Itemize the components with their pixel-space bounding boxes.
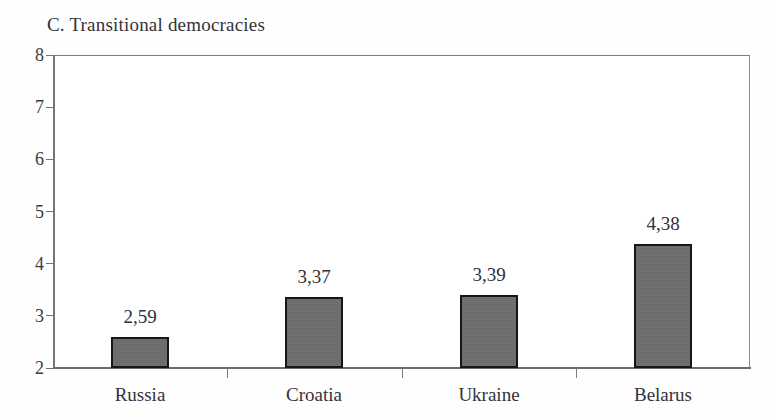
bar-value-label: 4,38 — [603, 214, 723, 234]
x-axis-tick — [576, 369, 577, 378]
x-axis-tick — [402, 369, 403, 378]
bar-texture — [462, 297, 516, 366]
bar — [285, 297, 343, 368]
y-axis-tick — [46, 211, 54, 212]
bar-value-label: 3,39 — [429, 265, 549, 285]
bar-value-label: 3,37 — [254, 267, 374, 287]
x-axis-category-label: Belarus — [583, 384, 743, 406]
x-axis-category-label: Ukraine — [409, 384, 569, 406]
y-axis-tick-label: 2 — [0, 359, 44, 377]
bar — [111, 337, 169, 368]
bar-texture — [287, 299, 341, 366]
chart-title: C. Transitional democracies — [47, 13, 265, 37]
y-axis-tick — [46, 263, 54, 264]
y-axis-tick-label: 6 — [0, 150, 44, 168]
y-axis-tick-label: 4 — [0, 255, 44, 273]
y-axis-tick-label: 8 — [0, 46, 44, 64]
y-axis-tick — [46, 159, 54, 160]
y-axis-tick-label-text: 5 — [4, 203, 44, 221]
bar-texture — [636, 246, 690, 366]
bar-texture — [113, 339, 167, 366]
y-axis-tick — [46, 315, 54, 316]
y-axis-tick-label: 7 — [0, 98, 44, 116]
chart-screenshot: C. Transitional democracies 2345678 2,59… — [0, 0, 773, 419]
x-axis-category-label: Croatia — [234, 384, 394, 406]
y-axis-tick-label-text: 4 — [4, 255, 44, 273]
y-axis-tick-label: 3 — [0, 307, 44, 325]
y-axis-tick-label-text: 3 — [4, 307, 44, 325]
y-axis-tick-label-text: 6 — [4, 150, 44, 168]
y-axis-tick-label-text: 8 — [4, 46, 44, 64]
x-axis-tick — [227, 369, 228, 378]
y-axis-tick — [46, 368, 54, 369]
y-axis-tick — [46, 55, 54, 56]
y-axis-tick-label-text: 7 — [4, 98, 44, 116]
y-axis-tick — [46, 107, 54, 108]
y-axis-tick-label-text: 2 — [4, 359, 44, 377]
y-axis-tick-label: 5 — [0, 203, 44, 221]
y-axis-line — [53, 55, 55, 369]
bar — [460, 295, 518, 368]
x-axis-category-label: Russia — [60, 384, 220, 406]
bar-value-label: 2,59 — [80, 307, 200, 327]
bar — [634, 244, 692, 368]
